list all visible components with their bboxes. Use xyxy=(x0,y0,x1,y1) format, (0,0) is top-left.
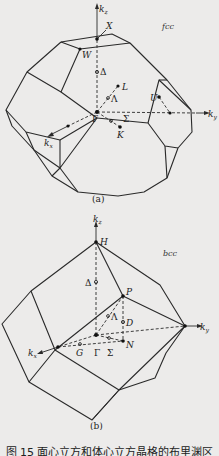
lattice-tag-bcc: bcc xyxy=(163,249,178,258)
point-label-X: X xyxy=(105,21,113,31)
point-label-Lambda: Λ xyxy=(110,312,118,322)
point-label-H: H xyxy=(99,237,108,247)
axis-label-kz: kz xyxy=(93,214,102,225)
figure-caption: 图 15 面心立方和体心立方晶格的布里渊区 xyxy=(0,444,219,456)
bcc-diagram: kz H bcc Δ P Λ D ky G Γ Σ N kx (b) xyxy=(0,210,219,430)
axis-label-kx: kx xyxy=(44,138,53,149)
point-label-D: D xyxy=(125,318,133,328)
sublabel-b: (b) xyxy=(90,421,103,430)
point-label-P: P xyxy=(125,287,133,297)
lattice-tag-fcc: fcc xyxy=(161,22,174,31)
point-label-Delta: Δ xyxy=(85,278,92,288)
axis-label-ky: ky xyxy=(208,109,217,121)
axis-label-ky: ky xyxy=(200,322,209,334)
point-label-K: K xyxy=(116,130,125,140)
fcc-diagram: kz X fcc W Δ L Λ U ky Γ Σ K kx (a) xyxy=(0,0,219,210)
point-label-U: U xyxy=(150,93,158,103)
point-label-L: L xyxy=(121,82,128,92)
bcc-brillouin-zone-figure: kz H bcc Δ P Λ D ky G Γ Σ N kx (b) xyxy=(0,210,219,430)
point-label-Sigma: Σ xyxy=(107,348,113,358)
point-label-Delta: Δ xyxy=(100,67,107,77)
point-label-G: G xyxy=(76,348,83,358)
point-label-N: N xyxy=(125,340,135,350)
sublabel-a: (a) xyxy=(92,194,104,204)
point-label-Gamma: Γ xyxy=(94,348,100,358)
point-label-W: W xyxy=(82,50,92,60)
point-label-Lambda: Λ xyxy=(110,94,118,104)
axis-label-kx: kx xyxy=(28,348,37,359)
point-label-Gamma: Γ xyxy=(92,114,98,124)
fcc-brillouin-zone-figure: kz X fcc W Δ L Λ U ky Γ Σ K kx (a) xyxy=(0,0,219,210)
axis-label-kz: kz xyxy=(99,4,108,15)
point-label-Sigma: Σ xyxy=(123,114,129,124)
